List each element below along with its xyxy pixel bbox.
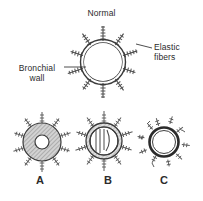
normal-airway-lumen <box>84 43 122 81</box>
elastic-fibers-label-line1: Elastic <box>154 42 180 52</box>
panel-label-b: B <box>104 176 112 186</box>
panel-label-c: C <box>160 176 168 186</box>
panel-a-narrowed-lumen <box>35 135 49 149</box>
bronchial-wall-label: Bronchialwall <box>8 64 66 83</box>
normal-airway-diagram <box>64 26 152 98</box>
panel-c-diagram <box>137 116 190 167</box>
elastic-fibers-leader-line <box>136 44 152 48</box>
airway-cross-section-figure: Normal Elasticfibers Bronchialwall A B C <box>0 0 203 201</box>
elastic-fibers-label: Elasticfibers <box>154 43 180 62</box>
airway-diagram-canvas <box>0 0 203 201</box>
panel-label-a: A <box>36 176 44 186</box>
bronchial-wall-label-line2: wall <box>29 73 44 83</box>
panel-a-diagram <box>13 112 71 172</box>
elastic-fibers-label-line2: fibers <box>154 52 175 62</box>
panel-b-diagram <box>75 111 133 171</box>
figure-title: Normal <box>0 9 203 19</box>
bronchial-wall-label-line1: Bronchial <box>19 63 55 73</box>
panel-c-lumen <box>153 131 176 154</box>
